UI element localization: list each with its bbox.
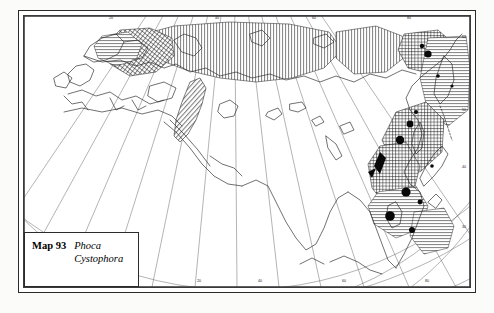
taxon-name-1: Phoca (74, 240, 123, 253)
tick-right-2: 40 (462, 166, 466, 170)
tick-top-2: 60 (312, 17, 316, 21)
map-number-label: Map 93 (32, 240, 66, 252)
tick-bottom-0: 20 (197, 280, 201, 284)
taxa-list: Phoca Cystophora (74, 240, 123, 265)
tick-top-1: 40 (215, 17, 219, 21)
tick-top-3: 80 (407, 17, 411, 21)
tick-right-3: 30 (462, 226, 466, 230)
taxon-name-2: Cystophora (74, 253, 123, 266)
tick-bottom-2: 60 (342, 280, 346, 284)
scanned-page: 20 40 60 80 20 40 60 80 60 50 40 30 Map … (0, 0, 494, 313)
tick-top-0: 20 (109, 17, 113, 21)
tick-right-1: 50 (462, 109, 466, 113)
tick-bottom-1: 40 (258, 280, 262, 284)
tick-bottom-3: 80 (425, 280, 429, 284)
map-caption-box: Map 93 Phoca Cystophora (24, 232, 139, 287)
tick-right-0: 60 (462, 36, 466, 40)
